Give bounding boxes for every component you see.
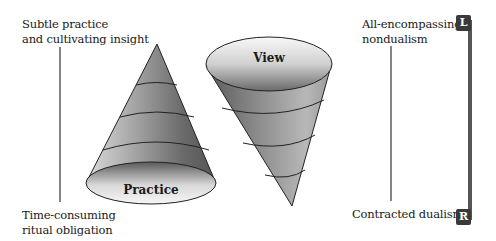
scale-bottom-tag: R (456, 209, 471, 225)
view-label: View (252, 51, 285, 65)
cones-diagram: Practice View (0, 0, 496, 241)
scale-top-tag: L (456, 15, 471, 31)
practice-label: Practice (123, 183, 179, 197)
practice-cone (86, 44, 216, 204)
scale-bar (468, 20, 472, 220)
